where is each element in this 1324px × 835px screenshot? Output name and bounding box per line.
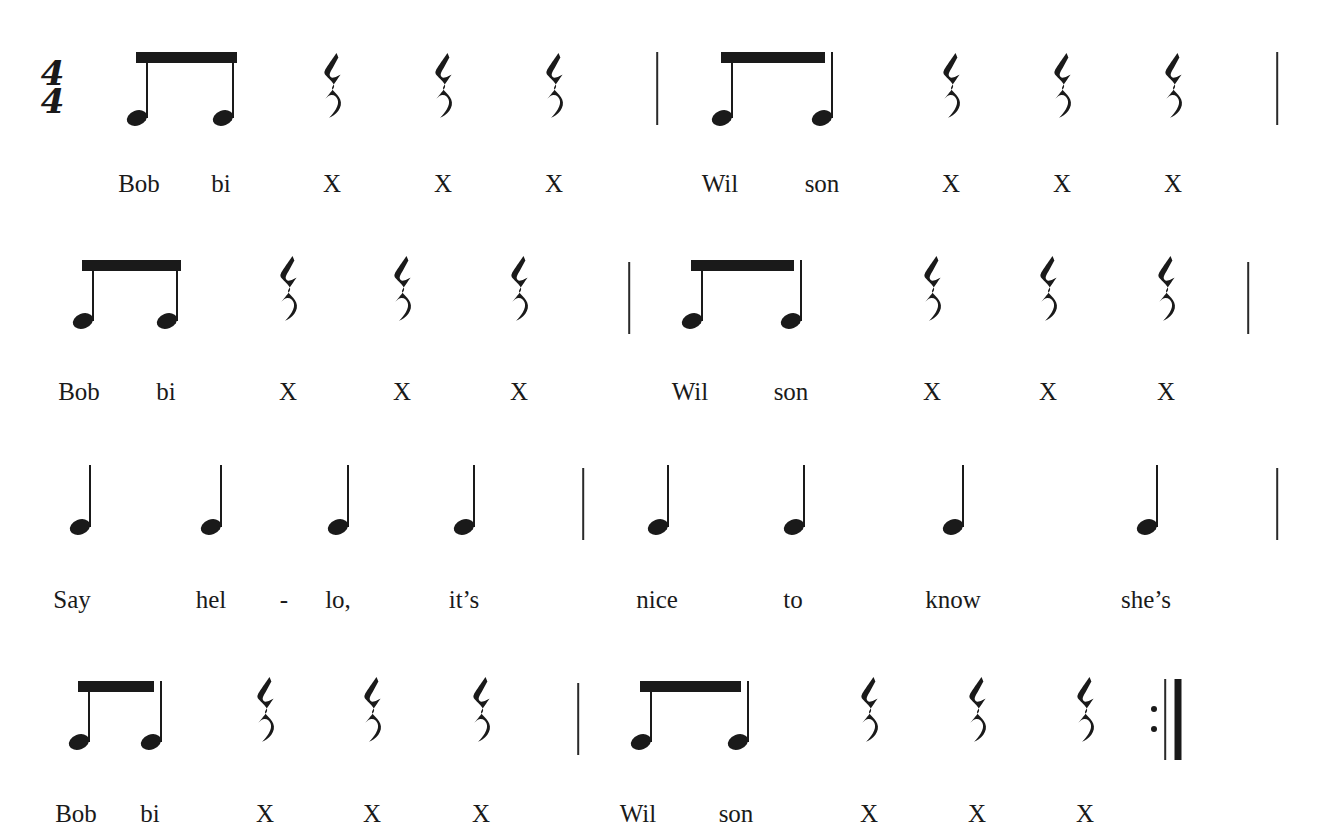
lyric-syllable: X bbox=[323, 170, 341, 198]
quarter-rest-icon bbox=[1033, 254, 1063, 332]
note-head bbox=[680, 310, 705, 332]
note-stem bbox=[220, 465, 222, 527]
note-head bbox=[199, 516, 224, 538]
lyric-syllable: X bbox=[393, 378, 411, 406]
note-head bbox=[155, 310, 180, 332]
music-score: 4 4 BobbiXXXWilsonXXXBobbiXXXWilsonXXXSa… bbox=[0, 0, 1324, 835]
note-stem bbox=[701, 260, 703, 321]
note-stem bbox=[747, 681, 749, 742]
lyric-syllable: son bbox=[805, 170, 840, 198]
beam bbox=[136, 52, 237, 63]
lyric-syllable: Bob bbox=[55, 800, 97, 828]
note-stem bbox=[347, 465, 349, 527]
barline bbox=[1276, 468, 1278, 540]
barline bbox=[1276, 52, 1278, 125]
lyric-syllable: Bob bbox=[118, 170, 160, 198]
lyric-syllable: know bbox=[925, 586, 981, 614]
note-head bbox=[646, 516, 671, 538]
beam bbox=[721, 52, 825, 63]
lyric-syllable: nice bbox=[636, 586, 678, 614]
note-head bbox=[71, 310, 96, 332]
lyric-syllable: X bbox=[1039, 378, 1057, 406]
note-head bbox=[726, 731, 751, 753]
note-head bbox=[67, 731, 92, 753]
repeat-dot bbox=[1151, 706, 1157, 712]
quarter-rest-icon bbox=[504, 254, 534, 332]
lyric-syllable: X bbox=[472, 800, 490, 828]
quarter-rest-icon bbox=[1047, 51, 1077, 129]
quarter-rest-icon bbox=[1070, 675, 1100, 753]
quarter-rest-icon bbox=[250, 675, 280, 753]
beam bbox=[691, 260, 794, 271]
quarter-rest-icon bbox=[1158, 51, 1188, 129]
note-stem bbox=[667, 465, 669, 527]
note-head bbox=[68, 516, 93, 538]
note-head bbox=[1135, 516, 1160, 538]
system-4: BobbiXXXWilsonXXX bbox=[0, 0, 1324, 835]
quarter-rest-icon bbox=[387, 254, 417, 332]
note-head bbox=[629, 731, 654, 753]
lyric-syllable: X bbox=[923, 378, 941, 406]
lyric-syllable: Wil bbox=[620, 800, 657, 828]
quarter-rest-icon bbox=[539, 51, 569, 129]
beam bbox=[78, 681, 154, 692]
system-2: BobbiXXXWilsonXXX bbox=[0, 0, 1324, 835]
quarter-rest-icon bbox=[357, 675, 387, 753]
note-head bbox=[211, 107, 236, 129]
quarter-rest-icon bbox=[1151, 254, 1181, 332]
note-stem bbox=[962, 465, 964, 527]
quarter-rest-icon bbox=[317, 51, 347, 129]
lyric-syllable: X bbox=[510, 378, 528, 406]
beam bbox=[82, 260, 181, 271]
lyric-hyphen: - bbox=[280, 586, 288, 614]
lyric-syllable: it’s bbox=[449, 586, 480, 614]
quarter-rest-icon bbox=[917, 254, 947, 332]
note-stem bbox=[146, 52, 148, 118]
lyric-syllable: X bbox=[1053, 170, 1071, 198]
quarter-rest-icon bbox=[273, 254, 303, 332]
barline bbox=[656, 52, 658, 125]
lyric-syllable: lo, bbox=[325, 586, 351, 614]
lyric-syllable: X bbox=[1164, 170, 1182, 198]
quarter-rest-icon bbox=[962, 675, 992, 753]
note-stem bbox=[803, 465, 805, 527]
note-stem bbox=[88, 681, 90, 742]
barline bbox=[577, 683, 579, 755]
note-head bbox=[941, 516, 966, 538]
lyric-syllable: X bbox=[942, 170, 960, 198]
system-3: Sayhello,it’snicetoknowshe’s- bbox=[0, 0, 1324, 835]
note-head bbox=[139, 731, 164, 753]
lyric-syllable: X bbox=[279, 378, 297, 406]
repeat-dot bbox=[1151, 726, 1157, 732]
time-signature-denominator: 4 bbox=[41, 88, 64, 116]
note-head bbox=[710, 107, 735, 129]
end-repeat-thick-line bbox=[1175, 679, 1182, 760]
lyric-syllable: son bbox=[719, 800, 754, 828]
lyric-syllable: son bbox=[774, 378, 809, 406]
note-head bbox=[810, 107, 835, 129]
lyric-syllable: X bbox=[860, 800, 878, 828]
note-stem bbox=[176, 260, 178, 321]
lyric-syllable: bi bbox=[156, 378, 175, 406]
lyric-syllable: hel bbox=[196, 586, 227, 614]
lyric-syllable: X bbox=[256, 800, 274, 828]
barline bbox=[628, 262, 630, 334]
note-stem bbox=[473, 465, 475, 527]
lyric-syllable: Wil bbox=[702, 170, 739, 198]
note-head bbox=[452, 516, 477, 538]
lyric-syllable: X bbox=[545, 170, 563, 198]
note-head bbox=[326, 516, 351, 538]
lyric-syllable: X bbox=[363, 800, 381, 828]
beam bbox=[640, 681, 741, 692]
note-stem bbox=[92, 260, 94, 321]
lyric-syllable: Wil bbox=[672, 378, 709, 406]
note-stem bbox=[800, 260, 802, 321]
quarter-rest-icon bbox=[854, 675, 884, 753]
end-repeat-thin-line bbox=[1164, 679, 1166, 760]
lyric-syllable: bi bbox=[140, 800, 159, 828]
lyric-syllable: she’s bbox=[1121, 586, 1171, 614]
note-head bbox=[779, 310, 804, 332]
lyric-syllable: X bbox=[1076, 800, 1094, 828]
lyric-syllable: bi bbox=[211, 170, 230, 198]
lyric-syllable: X bbox=[1157, 378, 1175, 406]
